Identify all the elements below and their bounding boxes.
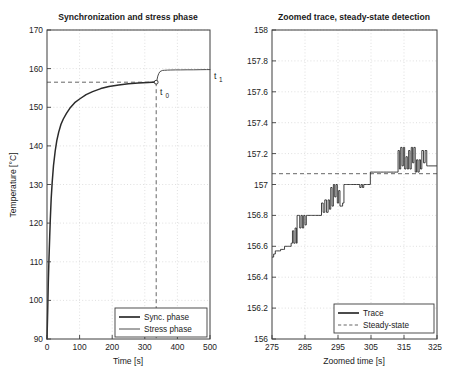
right-grid-horizontal [272, 30, 437, 308]
y-tick-100: 100 [29, 295, 43, 305]
y-tick-120: 120 [29, 218, 43, 228]
legend-label-sync-phase: Sync. phase [144, 313, 190, 322]
y-tick-140: 140 [29, 141, 43, 151]
left-chart-title: Synchronization and stress phase [58, 12, 198, 22]
legend-label-trace: Trace [363, 309, 384, 318]
x-tick-0: 0 [45, 342, 50, 352]
y-tick-156p8: 156.8 [247, 210, 268, 220]
left-y-tick-labels: 170 160 150 140 130 120 110 100 90 [29, 25, 43, 344]
left-legend[interactable]: Sync. phase Stress phase [115, 308, 207, 337]
x-tick-325: 325 [428, 342, 442, 352]
right-y-tick-labels: 158 157.8 157.6 157.4 157.2 157 156.8 15… [247, 25, 268, 344]
right-chart-title: Zoomed trace, steady-state detection [278, 12, 430, 22]
left-grid-horizontal [47, 30, 210, 300]
x-tick-275: 275 [265, 342, 279, 352]
y-tick-156p6: 156.6 [247, 241, 268, 251]
stress-phase-trace [156, 70, 210, 83]
t0-label: t [160, 87, 163, 97]
y-tick-157p8: 157.8 [247, 56, 268, 66]
right-legend[interactable]: Trace Steady-state [334, 304, 434, 333]
right-x-axis-label: Zoomed time [s] [323, 356, 385, 366]
figure-canvas: Synchronization and stress phase [0, 0, 451, 381]
x-tick-200: 200 [105, 342, 119, 352]
x-tick-315: 315 [397, 342, 411, 352]
y-tick-130: 130 [29, 180, 43, 190]
x-tick-305: 305 [364, 342, 378, 352]
x-tick-295: 295 [331, 342, 345, 352]
left-chart-svg: Synchronization and stress phase [0, 0, 230, 381]
y-tick-110: 110 [30, 257, 44, 267]
y-tick-160: 160 [29, 64, 43, 74]
left-x-axis-label: Time [s] [113, 356, 143, 366]
x-tick-500: 500 [203, 342, 217, 352]
x-tick-400: 400 [170, 342, 184, 352]
right-chart-svg: Zoomed trace, steady-state detection [230, 0, 451, 381]
x-tick-300: 300 [138, 342, 152, 352]
x-tick-100: 100 [73, 342, 87, 352]
t0-marker [154, 80, 158, 84]
left-chart-panel: Synchronization and stress phase [0, 0, 230, 381]
right-x-tick-labels: 275 285 295 305 315 325 [265, 342, 442, 352]
legend-label-stress-phase: Stress phase [144, 325, 192, 334]
x-tick-285: 285 [298, 342, 312, 352]
right-chart-panel: Zoomed trace, steady-state detection [230, 0, 451, 381]
t1-label: t [214, 71, 217, 81]
zoomed-trace [272, 147, 437, 257]
y-tick-90: 90 [34, 334, 44, 344]
y-tick-157p2: 157.2 [247, 149, 268, 159]
y-tick-158: 158 [254, 25, 268, 35]
y-tick-156p2: 156.2 [247, 303, 268, 313]
legend-label-steady-state: Steady-state [363, 321, 409, 330]
t0-label-subscript: 0 [166, 92, 170, 99]
y-tick-156p4: 156.4 [247, 272, 268, 282]
t1-label-subscript: 1 [219, 76, 223, 83]
y-tick-150: 150 [29, 102, 43, 112]
y-tick-157p6: 157.6 [247, 87, 268, 97]
y-tick-157p4: 157.4 [247, 118, 268, 128]
left-x-tick-labels: 0 100 200 300 400 500 [45, 342, 218, 352]
y-tick-170: 170 [29, 25, 43, 35]
y-tick-157: 157 [254, 180, 268, 190]
left-y-axis-label: Temperature [°C] [8, 152, 18, 217]
